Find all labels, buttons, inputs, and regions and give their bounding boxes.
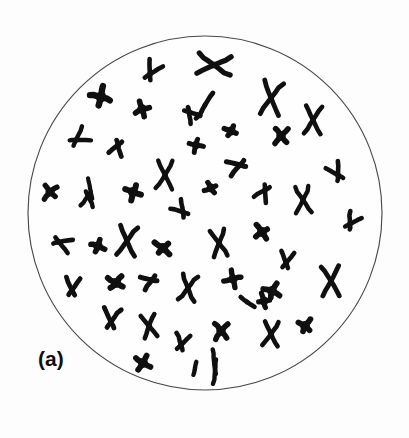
cell-boundary-circle — [28, 36, 382, 390]
centromere — [257, 227, 267, 237]
centromere — [147, 71, 153, 77]
chromosome-arm — [88, 178, 90, 188]
centromere — [300, 197, 305, 202]
centromere — [56, 239, 62, 245]
centromere — [69, 287, 75, 293]
chromosome-49 — [193, 362, 196, 375]
centromere — [146, 323, 152, 329]
centromere — [185, 285, 191, 291]
centromere — [283, 260, 289, 266]
centromere — [335, 172, 341, 178]
centromere — [237, 162, 243, 168]
chromosome-11 — [224, 126, 236, 136]
chromosome-arm — [195, 362, 196, 368]
centromere — [149, 277, 155, 283]
centromere — [192, 141, 201, 150]
centromere — [267, 286, 277, 296]
centromere — [262, 187, 268, 193]
centromere — [108, 319, 114, 325]
centromere — [158, 243, 168, 253]
centromere — [260, 297, 269, 306]
centromere — [73, 137, 78, 142]
figure-panel-a: (a) — [0, 0, 409, 438]
centromere — [162, 172, 167, 177]
centromere — [216, 326, 226, 336]
chromosome-35 — [108, 276, 123, 288]
centromere — [347, 221, 353, 227]
centromere — [137, 104, 147, 114]
chromosome-50 — [136, 356, 150, 370]
chromosome-spread-canvas — [0, 0, 409, 438]
centromere — [45, 187, 54, 196]
centromere — [211, 62, 217, 68]
chromosome-arm — [215, 359, 216, 371]
centromere — [111, 278, 121, 288]
chromosome-arm — [213, 349, 214, 361]
centromere — [178, 342, 184, 348]
centromere — [228, 274, 237, 283]
centromere — [180, 209, 186, 215]
chromosome-48 — [213, 359, 216, 383]
centromere — [207, 184, 216, 193]
centromere — [276, 131, 286, 141]
centromere — [328, 278, 334, 284]
centromere — [93, 241, 103, 251]
centromere — [128, 187, 138, 197]
centromere — [186, 109, 192, 115]
centromere — [85, 193, 90, 198]
centromere — [310, 117, 316, 123]
centromere — [216, 240, 222, 246]
centromere — [115, 142, 121, 148]
panel-label: (a) — [38, 348, 64, 369]
centromere — [268, 331, 274, 337]
centromere — [124, 238, 130, 244]
chromosome-31 — [256, 225, 267, 239]
centromere — [300, 321, 310, 331]
centromere — [138, 358, 148, 368]
centromere — [226, 126, 235, 135]
centromere — [268, 95, 274, 101]
chromosome-21 — [204, 182, 216, 192]
centromere — [96, 92, 107, 103]
